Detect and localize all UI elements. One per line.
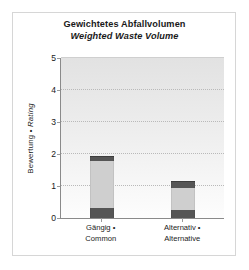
gridline-4 [61,89,224,90]
chart-figure: Gewichtetes Abfallvolumen Weighted Waste… [0,0,249,270]
y-tick-label-0: 0 [51,214,56,223]
x-category-2-line1: Alternativ • [142,222,224,233]
y-tick-label-5: 5 [51,54,56,63]
chart-title: Gewichtetes Abfallvolumen Weighted Waste… [14,19,235,42]
x-category-label-2: Alternativ •Alternative [142,222,224,244]
gridline-5 [61,57,224,58]
y-axis-title-german: Bewertung [26,134,35,173]
chart-title-english: Weighted Waste Volume [14,31,235,43]
bar-2-edge [171,181,195,218]
x-category-2-line2: Alternative [142,233,224,244]
plot-area [60,58,224,219]
gridline-3 [61,121,224,122]
gridline-1 [61,185,224,186]
y-tick-label-2: 2 [51,150,56,159]
x-category-label-1: Gängig •Common [60,222,142,244]
x-category-1-line2: Common [60,233,142,244]
y-axis-title-separator: • [26,129,35,132]
bar-1 [90,156,114,218]
chart-title-german: Gewichtetes Abfallvolumen [14,19,235,31]
x-axis-categories: Gängig •CommonAlternativ •Alternative [60,222,223,256]
x-category-1-line1: Gängig • [60,222,142,233]
gridline-2 [61,153,224,154]
y-tick-label-4: 4 [51,86,56,95]
bar-2 [171,181,195,218]
y-axis-ticks: 012345 [40,58,60,218]
y-tick-label-1: 1 [51,182,56,191]
bar-1-edge [90,156,114,218]
y-axis-title-english: Rating [26,103,35,127]
y-tick-label-3: 3 [51,118,56,127]
y-axis-title: Bewertung • Rating [23,58,37,218]
